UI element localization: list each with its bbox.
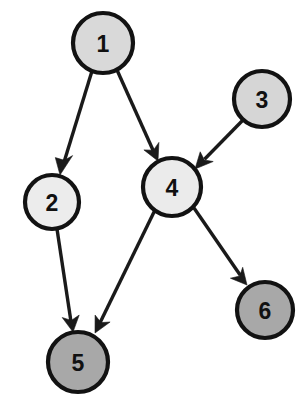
graph-node-4[interactable]: 4 <box>143 158 201 216</box>
graph-node-5[interactable]: 5 <box>48 332 108 392</box>
edge-line <box>194 208 240 275</box>
arrowhead-icon <box>230 267 247 285</box>
node-label: 5 <box>72 350 85 376</box>
edge-4-to-5[interactable] <box>95 210 155 333</box>
graph-node-6[interactable]: 6 <box>237 282 293 338</box>
node-label: 6 <box>259 298 272 324</box>
edge-line <box>57 229 71 321</box>
node-label: 3 <box>256 87 269 113</box>
edge-1-to-2[interactable] <box>55 71 92 175</box>
edge-line <box>100 210 155 323</box>
node-layer: 1 2 3 4 5 6 <box>25 13 293 392</box>
edge-3-to-4[interactable] <box>195 120 243 169</box>
edge-line <box>117 70 154 151</box>
graph-node-3[interactable]: 3 <box>234 71 290 127</box>
node-label: 2 <box>46 190 59 216</box>
directed-graph: 1 2 3 4 5 6 <box>0 0 306 414</box>
graph-canvas: 1 2 3 4 5 6 <box>0 0 306 414</box>
edge-4-to-6[interactable] <box>194 208 247 285</box>
edge-2-to-5[interactable] <box>57 229 79 332</box>
node-label: 4 <box>166 175 179 201</box>
graph-node-2[interactable]: 2 <box>25 175 79 229</box>
edge-line <box>205 120 244 159</box>
edge-line <box>64 71 92 164</box>
edge-1-to-4[interactable] <box>117 70 159 161</box>
node-label: 1 <box>97 31 110 57</box>
graph-node-1[interactable]: 1 <box>73 13 133 73</box>
